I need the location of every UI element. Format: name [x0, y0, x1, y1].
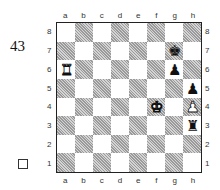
square-b1[interactable] [75, 153, 93, 172]
square-c3[interactable] [93, 116, 111, 135]
rank-label: 6 [47, 60, 51, 79]
file-label: b [74, 176, 92, 185]
square-b4[interactable] [75, 98, 93, 117]
rank-label: 3 [47, 116, 51, 135]
square-c4[interactable] [93, 98, 111, 117]
file-labels-bottom: abcdefgh [56, 176, 202, 185]
square-f4[interactable]: ♚ [147, 98, 165, 117]
square-d4[interactable] [111, 98, 129, 117]
square-g2[interactable] [165, 135, 183, 154]
black-rook-icon[interactable]: ♜ [186, 118, 199, 133]
rank-label: 4 [205, 98, 209, 117]
square-b5[interactable] [75, 79, 93, 98]
square-g1[interactable] [165, 153, 183, 172]
rank-label: 2 [205, 135, 209, 154]
square-e2[interactable] [129, 135, 147, 154]
square-c2[interactable] [93, 135, 111, 154]
square-h8[interactable] [183, 23, 201, 42]
square-b2[interactable] [75, 135, 93, 154]
square-h2[interactable] [183, 135, 201, 154]
square-a1[interactable] [57, 153, 75, 172]
file-label: c [93, 11, 111, 20]
square-c8[interactable] [93, 23, 111, 42]
square-f5[interactable] [147, 79, 165, 98]
square-a4[interactable] [57, 98, 75, 117]
rank-label: 6 [205, 60, 209, 79]
square-g7[interactable]: ♚ [165, 42, 183, 61]
file-label: d [111, 11, 129, 20]
square-a2[interactable] [57, 135, 75, 154]
square-h6[interactable] [183, 60, 201, 79]
square-d6[interactable] [111, 60, 129, 79]
square-a3[interactable] [57, 116, 75, 135]
rank-label: 7 [205, 41, 209, 60]
square-h3[interactable]: ♜ [183, 116, 201, 135]
square-h4[interactable]: ♟ [183, 98, 201, 117]
black-pawn-icon[interactable]: ♟ [186, 81, 199, 96]
square-a6[interactable]: ♜ [57, 60, 75, 79]
square-d1[interactable] [111, 153, 129, 172]
square-d3[interactable] [111, 116, 129, 135]
file-label: d [111, 176, 129, 185]
rank-labels-right: 87654321 [205, 22, 209, 173]
square-c6[interactable] [93, 60, 111, 79]
square-b8[interactable] [75, 23, 93, 42]
square-e3[interactable] [129, 116, 147, 135]
square-e4[interactable] [129, 98, 147, 117]
file-label: c [93, 176, 111, 185]
square-f1[interactable] [147, 153, 165, 172]
square-e5[interactable] [129, 79, 147, 98]
square-a5[interactable] [57, 79, 75, 98]
rank-label: 3 [205, 116, 209, 135]
file-label: g [166, 11, 184, 20]
square-c1[interactable] [93, 153, 111, 172]
rank-label: 4 [47, 98, 51, 117]
square-f3[interactable] [147, 116, 165, 135]
square-f6[interactable] [147, 60, 165, 79]
square-e8[interactable] [129, 23, 147, 42]
diagram-number: 43 [10, 38, 25, 55]
square-b6[interactable] [75, 60, 93, 79]
square-a8[interactable] [57, 23, 75, 42]
square-e6[interactable] [129, 60, 147, 79]
square-e7[interactable] [129, 42, 147, 61]
square-g6[interactable]: ♟ [165, 60, 183, 79]
square-d5[interactable] [111, 79, 129, 98]
white-king-icon[interactable]: ♚ [150, 99, 163, 114]
square-g8[interactable] [165, 23, 183, 42]
square-c5[interactable] [93, 79, 111, 98]
file-label: f [147, 11, 165, 20]
rank-label: 8 [47, 22, 51, 41]
black-pawn-icon[interactable]: ♟ [168, 62, 181, 77]
square-d8[interactable] [111, 23, 129, 42]
square-g4[interactable] [165, 98, 183, 117]
square-c7[interactable] [93, 42, 111, 61]
square-h5[interactable]: ♟ [183, 79, 201, 98]
square-h1[interactable] [183, 153, 201, 172]
side-to-move-indicator [18, 159, 28, 169]
square-e1[interactable] [129, 153, 147, 172]
square-h7[interactable] [183, 42, 201, 61]
square-d2[interactable] [111, 135, 129, 154]
file-label: a [56, 176, 74, 185]
square-b7[interactable] [75, 42, 93, 61]
square-d7[interactable] [111, 42, 129, 61]
square-f8[interactable] [147, 23, 165, 42]
square-f7[interactable] [147, 42, 165, 61]
square-f2[interactable] [147, 135, 165, 154]
file-label: e [129, 176, 147, 185]
square-g5[interactable] [165, 79, 183, 98]
rank-label: 8 [205, 22, 209, 41]
white-rook-icon[interactable]: ♜ [60, 62, 73, 77]
white-pawn-icon[interactable]: ♟ [186, 99, 199, 114]
file-label: h [184, 176, 202, 185]
file-labels-top: abcdefgh [56, 11, 202, 20]
file-label: b [74, 11, 92, 20]
rank-label: 7 [47, 41, 51, 60]
rank-label: 1 [205, 154, 209, 173]
square-a7[interactable] [57, 42, 75, 61]
square-b3[interactable] [75, 116, 93, 135]
rank-label: 5 [47, 79, 51, 98]
black-king-icon[interactable]: ♚ [168, 43, 181, 58]
square-g3[interactable] [165, 116, 183, 135]
